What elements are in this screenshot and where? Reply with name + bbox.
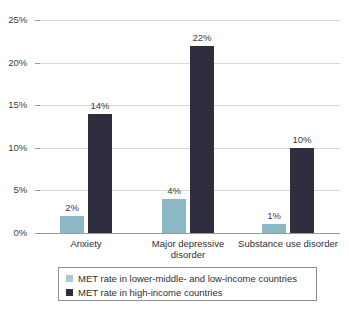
bar-value-label: 14%	[82, 101, 118, 111]
y-axis-tick	[35, 233, 40, 234]
bar	[88, 114, 112, 233]
legend-item: MET rate in high-income countries	[66, 286, 310, 299]
bar-value-label: 1%	[256, 211, 292, 221]
bar	[162, 199, 186, 233]
bar-value-label: 10%	[284, 135, 320, 145]
category-label: Anxiety	[41, 238, 131, 249]
gridline	[40, 233, 340, 234]
bar	[262, 224, 286, 233]
y-axis-label: 25%	[0, 15, 27, 25]
y-axis-label: 20%	[0, 58, 27, 68]
legend-item: MET rate in lower-middle- and low-income…	[66, 272, 310, 285]
bar	[60, 216, 84, 233]
y-axis-tick	[35, 190, 40, 191]
y-axis-tick	[35, 20, 40, 21]
y-axis-tick	[35, 63, 40, 64]
y-axis-tick	[35, 105, 40, 106]
chart-legend: MET rate in lower-middle- and low-income…	[58, 267, 317, 301]
bar-value-label: 4%	[156, 186, 192, 196]
y-axis-label: 0%	[0, 228, 27, 238]
plot-area: 0%5%10%15%20%25%2%14%4%22%1%10%	[40, 20, 340, 233]
y-axis-label: 15%	[0, 100, 27, 110]
y-axis-label: 5%	[0, 185, 27, 195]
bar-chart: 0%5%10%15%20%25%2%14%4%22%1%10% AnxietyM…	[0, 0, 349, 311]
legend-swatch-high-income-icon	[66, 289, 73, 296]
bar-value-label: 2%	[54, 203, 90, 213]
legend-label: MET rate in high-income countries	[78, 287, 223, 298]
bar	[290, 148, 314, 233]
legend-label: MET rate in lower-middle- and low-income…	[78, 273, 297, 284]
y-axis-label: 10%	[0, 143, 27, 153]
category-label: Major depressive disorder	[138, 238, 238, 260]
y-axis-tick	[35, 148, 40, 149]
category-label: Substance use disorder	[229, 238, 347, 249]
legend-swatch-low-income-icon	[66, 275, 73, 282]
gridline	[40, 20, 340, 21]
bar-value-label: 22%	[184, 33, 220, 43]
bar	[190, 46, 214, 233]
